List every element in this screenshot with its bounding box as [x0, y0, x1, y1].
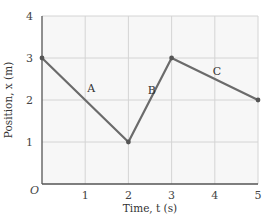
- data-point: [40, 56, 45, 61]
- y-tick-label: 3: [26, 52, 33, 65]
- data-point: [169, 56, 174, 61]
- x-tick-label: 5: [255, 189, 262, 202]
- y-tick-label: 4: [26, 10, 33, 23]
- x-axis-title: Time, t (s): [123, 202, 177, 214]
- x-tick-label: 4: [211, 189, 218, 202]
- data-point: [256, 98, 261, 103]
- x-tick-label: 3: [168, 189, 175, 202]
- position-time-chart: 123451234 ABC O Time, t (s) Position, x …: [0, 0, 271, 223]
- origin-label: O: [30, 184, 39, 197]
- segment-label-a: A: [86, 82, 96, 95]
- x-tick-label: 1: [82, 189, 89, 202]
- y-axis-title: Position, x (m): [2, 62, 14, 138]
- x-tick-label: 2: [125, 189, 132, 202]
- segment-label-b: B: [148, 84, 156, 97]
- y-tick-label: 1: [26, 136, 33, 149]
- y-tick-label: 2: [26, 94, 33, 107]
- data-point: [126, 140, 131, 145]
- segment-label-c: C: [213, 65, 221, 78]
